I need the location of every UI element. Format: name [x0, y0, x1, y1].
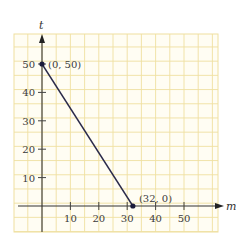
- x-axis-arrow-icon: [215, 203, 224, 209]
- data-point: [39, 61, 44, 66]
- y-tick-label: 30: [22, 116, 35, 127]
- x-tick-label: 50: [178, 213, 191, 224]
- line-chart: mt 10203040501020304050 (0, 50)(32, 0): [0, 0, 236, 244]
- y-tick-label: 20: [22, 144, 35, 155]
- x-tick-label: 30: [121, 213, 134, 224]
- y-tick-label: 40: [22, 87, 35, 98]
- point-label: (0, 50): [48, 59, 81, 70]
- x-tick-label: 20: [92, 213, 105, 224]
- x-axis-label: m: [226, 200, 236, 213]
- data-point: [130, 203, 135, 208]
- y-axis-label: t: [39, 19, 44, 32]
- y-tick-label: 10: [22, 173, 35, 184]
- point-label: (32, 0): [139, 193, 172, 204]
- y-tick-label: 50: [22, 59, 35, 70]
- x-tick-label: 40: [149, 213, 162, 224]
- x-tick-label: 10: [64, 213, 77, 224]
